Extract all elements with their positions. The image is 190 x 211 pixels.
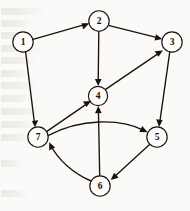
edge-2-to-3 bbox=[108, 25, 162, 40]
arrowhead-6-to-7 bbox=[49, 142, 55, 150]
node-label-7: 7 bbox=[36, 132, 41, 142]
arrowhead-2-to-4 bbox=[95, 79, 102, 86]
node-label-3: 3 bbox=[170, 37, 175, 47]
edge-6-to-4 bbox=[95, 106, 102, 176]
node-label-4: 4 bbox=[96, 91, 101, 101]
arrowhead-6-to-4 bbox=[95, 106, 102, 113]
arrowhead-3-to-5 bbox=[156, 119, 162, 127]
edge-3-to-5 bbox=[156, 52, 170, 127]
graph-node-7[interactable]: 7 bbox=[28, 127, 48, 147]
graph-node-5[interactable]: 5 bbox=[147, 127, 167, 147]
edge-6-to-7 bbox=[49, 142, 91, 181]
graph-node-1[interactable]: 1 bbox=[13, 32, 33, 52]
node-label-2: 2 bbox=[97, 16, 102, 26]
graph-canvas: 1 2 3 4 5 6 bbox=[0, 0, 190, 211]
edge-1-to-2 bbox=[33, 23, 89, 39]
node-label-1: 1 bbox=[21, 37, 26, 47]
graph-node-2[interactable]: 2 bbox=[89, 11, 109, 31]
graph-figure: 1 2 3 4 5 6 bbox=[0, 0, 190, 211]
node-label-5: 5 bbox=[155, 132, 160, 142]
edge-2-to-4 bbox=[95, 31, 102, 86]
edge-1-to-7 bbox=[26, 52, 39, 128]
arrowhead-1-to-7 bbox=[32, 120, 38, 127]
graph-node-6[interactable]: 6 bbox=[90, 176, 110, 196]
edge-4-to-3 bbox=[106, 50, 163, 89]
edge-5-to-6 bbox=[111, 144, 150, 180]
graph-node-4[interactable]: 4 bbox=[88, 86, 107, 105]
arrowhead-1-to-2 bbox=[82, 23, 90, 29]
graph-node-3[interactable]: 3 bbox=[162, 32, 182, 52]
edge-7-to-5 bbox=[48, 122, 148, 136]
arrowhead-2-to-3 bbox=[155, 34, 163, 40]
node-label-6: 6 bbox=[98, 181, 103, 191]
